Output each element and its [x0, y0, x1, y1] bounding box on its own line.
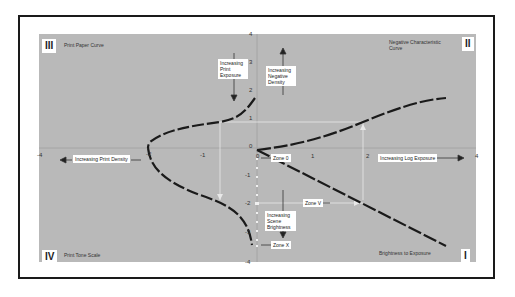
- y-tick: 1: [249, 115, 252, 121]
- curve-print-tone-scale: [148, 148, 252, 245]
- x-tick: -2: [146, 151, 151, 157]
- quadrant-numeral-1: I: [461, 249, 470, 263]
- quadrant-numeral-4: IV: [42, 250, 57, 264]
- y-tick: -4: [245, 259, 250, 265]
- quadrant-title-4: Print Tone Scale: [64, 252, 100, 258]
- label-zone-v: Zone V: [303, 199, 323, 207]
- quadrant-title-2: Negative Characteristic Curve: [389, 39, 441, 51]
- guide-lines: [220, 122, 363, 203]
- quadrant-numeral-2: II: [462, 37, 474, 51]
- y-tick: 2: [249, 87, 252, 93]
- y-tick: -2: [245, 200, 250, 206]
- quadrant-title-3: Print Paper Curve: [64, 42, 104, 48]
- y-tick: -1: [245, 172, 250, 178]
- curve-print-paper: [148, 98, 255, 148]
- y-tick: 4: [249, 31, 252, 37]
- x-tick: -4: [37, 152, 42, 158]
- label-zone-0: Zone 0: [271, 154, 291, 162]
- y-tick: 0: [249, 143, 252, 149]
- x-tick: 1: [311, 153, 314, 159]
- label-increasing-print-density: Increasing Print Density: [73, 155, 130, 163]
- x-tick: -1: [200, 152, 205, 158]
- x-tick: 2: [366, 153, 369, 159]
- y-tick: -3: [245, 229, 250, 235]
- y-tick: 3: [249, 59, 252, 65]
- label-zone-x: Zone X: [271, 241, 291, 249]
- quadrant-title-1: Brightness to Exposure: [379, 250, 431, 256]
- x-tick: 4: [475, 153, 478, 159]
- curve-negative-characteristic: [257, 98, 446, 150]
- label-increasing-scene-brightness: Increasing Scene Brightness: [265, 211, 296, 231]
- quadrant-numeral-3: III: [42, 39, 56, 53]
- label-increasing-log-exposure: Increasing Log Exposure: [378, 154, 437, 162]
- label-increasing-print-exposure: Increasing Print Exposure: [218, 59, 248, 79]
- x-tick: 0: [256, 153, 259, 159]
- label-increasing-negative-density: Increasing Negative Density: [266, 66, 296, 86]
